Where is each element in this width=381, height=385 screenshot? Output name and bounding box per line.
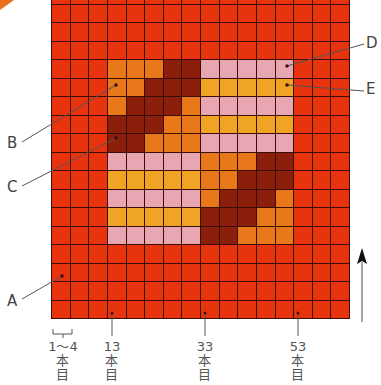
- stitch-unit-2: 目: [290, 368, 307, 382]
- chart-cell: [71, 97, 89, 115]
- chart-cell: [89, 171, 107, 189]
- chart-cell: [331, 42, 349, 60]
- chart-cell: [257, 97, 275, 115]
- chart-cell: [257, 134, 275, 152]
- chart-cell: [294, 227, 312, 245]
- chart-cell: [294, 171, 312, 189]
- chart-cell: [108, 5, 126, 23]
- chart-cell: [294, 97, 312, 115]
- chart-cell: [331, 190, 349, 208]
- chart-cell: [276, 60, 294, 78]
- chart-cell: [71, 116, 89, 134]
- chart-cell: [220, 153, 238, 171]
- chart-cell: [257, 23, 275, 41]
- chart-cell: [238, 171, 256, 189]
- chart-cell: [276, 245, 294, 263]
- chart-cell: [313, 190, 331, 208]
- chart-cell: [294, 79, 312, 97]
- chart-cell: [71, 0, 89, 4]
- chart-cell: [89, 264, 107, 282]
- chart-cell: [313, 264, 331, 282]
- chart-cell: [145, 0, 163, 4]
- chart-cell: [238, 282, 256, 300]
- stitch-unit-1: 本: [290, 354, 307, 368]
- chart-cell: [331, 301, 349, 319]
- chart-cell: [201, 0, 219, 4]
- chart-cell: [182, 171, 200, 189]
- chart-cell: [220, 60, 238, 78]
- chart-cell: [238, 264, 256, 282]
- chart-cell: [164, 227, 182, 245]
- chart-cell: [52, 245, 70, 263]
- chart-cell: [89, 42, 107, 60]
- chart-cell: [257, 42, 275, 60]
- chart-cell: [238, 60, 256, 78]
- chart-cell: [71, 301, 89, 319]
- chart-cell: [52, 97, 70, 115]
- chart-cell: [201, 282, 219, 300]
- chart-cell: [145, 227, 163, 245]
- chart-cell: [164, 282, 182, 300]
- chart-cell: [220, 301, 238, 319]
- chart-cell: [71, 171, 89, 189]
- bracket-1-4: [53, 329, 72, 334]
- chart-cell: [52, 171, 70, 189]
- chart-cell: [145, 171, 163, 189]
- chart-cell: [313, 282, 331, 300]
- chart-cell: [257, 208, 275, 226]
- chart-cell: [145, 42, 163, 60]
- chart-cell: [127, 227, 145, 245]
- chart-cell: [257, 79, 275, 97]
- direction-arrow-head-icon: [357, 248, 367, 264]
- chart-cell: [313, 134, 331, 152]
- chart-cell: [145, 282, 163, 300]
- chart-cell: [257, 60, 275, 78]
- chart-cell: [257, 171, 275, 189]
- chart-cell: [331, 79, 349, 97]
- chart-cell: [276, 208, 294, 226]
- chart-cell: [294, 0, 312, 4]
- chart-cell: [145, 60, 163, 78]
- chart-cell: [108, 208, 126, 226]
- chart-cell: [164, 208, 182, 226]
- chart-cell: [52, 264, 70, 282]
- chart-cell: [182, 134, 200, 152]
- chart-cell: [182, 42, 200, 60]
- callout-label-b: B: [7, 136, 17, 151]
- chart-cell: [145, 97, 163, 115]
- chart-cell: [71, 42, 89, 60]
- chart-cell: [145, 190, 163, 208]
- chart-cell: [182, 208, 200, 226]
- chart-cell: [257, 264, 275, 282]
- chart-cell: [71, 23, 89, 41]
- chart-cell: [238, 208, 256, 226]
- chart-cell: [182, 5, 200, 23]
- chart-cell: [220, 245, 238, 263]
- chart-cell: [182, 153, 200, 171]
- chart-cell: [220, 79, 238, 97]
- chart-cell: [145, 116, 163, 134]
- chart-cell: [89, 23, 107, 41]
- chart-cell: [331, 0, 349, 4]
- callout-label-c: C: [7, 180, 17, 195]
- chart-cell: [89, 116, 107, 134]
- chart-cell: [182, 301, 200, 319]
- chart-cell: [294, 264, 312, 282]
- chart-cell: [52, 190, 70, 208]
- chart-cell: [238, 5, 256, 23]
- chart-cell: [201, 171, 219, 189]
- chart-cell: [108, 227, 126, 245]
- chart-cell: [164, 60, 182, 78]
- chart-cell: [276, 116, 294, 134]
- chart-cell: [164, 264, 182, 282]
- chart-cell: [182, 23, 200, 41]
- chart-cell: [313, 23, 331, 41]
- chart-cell: [71, 282, 89, 300]
- chart-cell: [294, 60, 312, 78]
- chart-cell: [182, 0, 200, 4]
- stitch-unit-2: 目: [197, 368, 214, 382]
- chart-cell: [276, 171, 294, 189]
- stitch-unit-1: 本: [104, 354, 121, 368]
- chart-cell: [201, 79, 219, 97]
- chart-cell: [71, 153, 89, 171]
